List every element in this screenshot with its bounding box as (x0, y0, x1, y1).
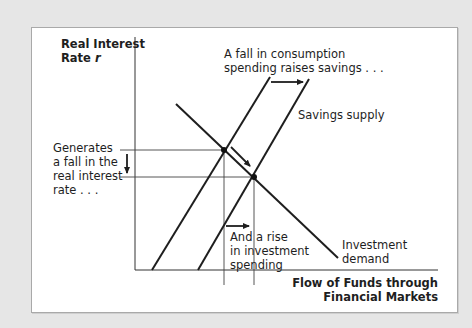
demand-label-line2: demand (342, 252, 407, 266)
x-axis-label: Flow of Funds through Financial Markets (292, 276, 438, 304)
bottom-annotation-line1: And a rise (230, 230, 309, 244)
left-annotation-line1: Generates (53, 141, 123, 155)
x-axis-label-line1: Flow of Funds through (292, 276, 438, 290)
y-axis-label: Real Interest Rate r (61, 37, 145, 65)
demand-label-line1: Investment (342, 238, 407, 252)
y-axis-label-line1: Real Interest (61, 37, 145, 51)
investment-demand-label: Investment demand (342, 238, 407, 266)
left-annotation: Generates a fall in the real interest ra… (53, 141, 123, 197)
top-annotation-line1: A fall in consumption (224, 47, 384, 61)
left-annotation-line4: rate . . . (53, 183, 123, 197)
new-equilibrium-point (251, 174, 257, 180)
savings-supply-label: Savings supply (298, 108, 384, 122)
y-axis-label-line2: Rate r (61, 51, 145, 65)
movement-along-demand-arrow (231, 147, 250, 166)
bottom-annotation-line3: spending (230, 258, 309, 272)
top-annotation: A fall in consumption spending raises sa… (224, 47, 384, 75)
top-annotation-line2: spending raises savings . . . (224, 61, 384, 75)
x-axis-label-line2: Financial Markets (292, 290, 438, 304)
initial-equilibrium-point (221, 147, 227, 153)
left-annotation-line2: a fall in the (53, 155, 123, 169)
bottom-annotation-line2: in investment (230, 244, 309, 258)
left-annotation-line3: real interest (53, 169, 123, 183)
bottom-annotation: And a rise in investment spending (230, 230, 309, 272)
